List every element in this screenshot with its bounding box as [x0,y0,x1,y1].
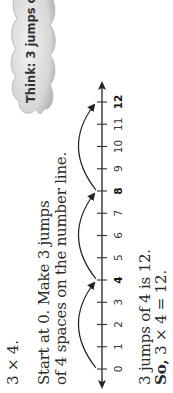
so-label: So, [152,360,170,385]
tick-label-12: 12 [112,94,124,110]
jump-arc-1 [78,283,96,368]
tick-label-1: 1 [112,339,124,355]
jump-arc-2 [78,194,96,279]
tick-label-8: 8 [112,183,124,199]
tick-label-11: 11 [112,116,124,132]
tick-label-3: 3 [112,294,124,310]
tick-label-0: 0 [112,361,124,377]
tick-label-10: 10 [112,139,124,155]
rotated-page: 3 × 4. Think: 3 jumps of 4 Start at 0. M… [0,0,173,393]
tick-label-5: 5 [112,250,124,266]
jump-arc-3 [78,105,96,190]
tick-label-4: 4 [112,272,124,288]
result-line-2: So, 3 × 4 = 12. [153,270,169,385]
result-line-1: 3 jumps of 4 is 12. [137,249,153,385]
tick-label-9: 9 [112,161,124,177]
tick-label-6: 6 [112,228,124,244]
equation: 3 × 4 = 12. [152,270,170,360]
tick-label-7: 7 [112,205,124,221]
tick-label-2: 2 [112,317,124,333]
